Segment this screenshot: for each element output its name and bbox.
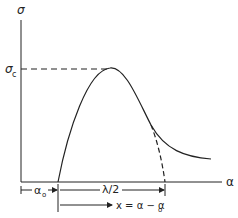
stress-curve	[58, 68, 211, 182]
x-definition-subscript: o	[158, 206, 162, 214]
a0-subscript: o	[42, 191, 46, 199]
stress-separation-diagram: σ α σ c α o λ/2 x = α − α o	[0, 0, 238, 218]
peak-stress-subscript: c	[12, 70, 16, 79]
y-axis-label: σ	[17, 3, 25, 17]
half-lambda-label: λ/2	[102, 183, 119, 196]
a0-label: α	[34, 184, 41, 197]
x-axis-label: α	[226, 175, 234, 189]
sinusoid-dashed-branch	[151, 125, 165, 182]
